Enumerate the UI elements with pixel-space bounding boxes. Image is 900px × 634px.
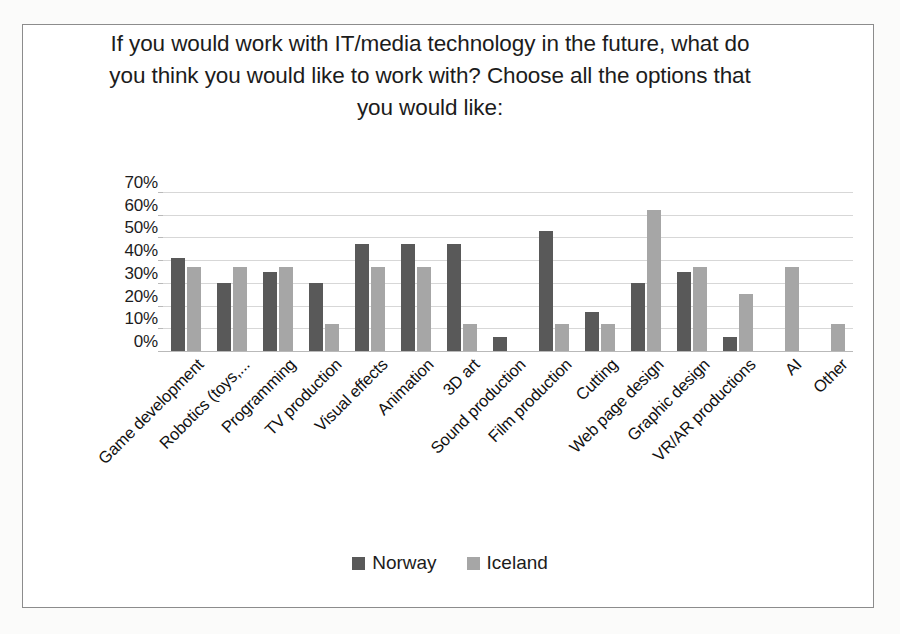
chart-title: If you would work with IT/media technolo… bbox=[90, 28, 770, 124]
